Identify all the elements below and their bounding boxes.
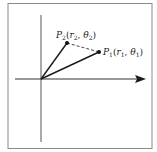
segment-p2-p1-dashed xyxy=(67,43,99,52)
label-p2: P2(r2, θ2) xyxy=(55,30,96,41)
frame-border xyxy=(8,4,152,149)
point-p1 xyxy=(97,50,101,54)
label-p1: P1(r1, θ1) xyxy=(102,47,143,58)
point-p2 xyxy=(65,41,69,45)
polar-diagram: P2(r2, θ2) P1(r1, θ1) xyxy=(0,0,157,152)
segment-origin-p1 xyxy=(41,52,99,79)
